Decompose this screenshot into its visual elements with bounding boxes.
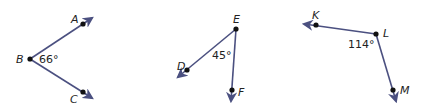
vertex-B (27, 56, 32, 61)
point-label-M: M (400, 84, 410, 97)
point-A (80, 21, 85, 26)
angle-measure: 45° (212, 49, 232, 62)
angle-KLM: KML114° (304, 9, 410, 101)
angle-DEF: DFE45° (177, 13, 245, 101)
point-C (80, 89, 85, 94)
angle-measure: 114° (348, 38, 375, 51)
vertex-label-B: B (16, 53, 24, 66)
vertex-E (233, 26, 238, 31)
point-label-F: F (238, 86, 245, 99)
angle-ABC: ACB66° (16, 13, 92, 106)
angle-measure: 66° (39, 53, 59, 66)
vertex-label-E: E (233, 13, 240, 26)
angle-diagram: ACB66°DFE45°KML114° (0, 0, 427, 108)
point-K (313, 22, 318, 27)
vertex-label-L: L (383, 27, 389, 40)
vertex-L (373, 31, 378, 36)
point-label-D: D (177, 60, 185, 73)
point-M (390, 87, 395, 92)
point-F (229, 87, 234, 92)
point-label-A: A (70, 13, 79, 26)
point-label-K: K (312, 9, 320, 22)
point-label-C: C (70, 93, 78, 106)
